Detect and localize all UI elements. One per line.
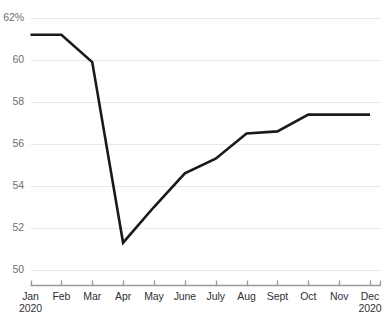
x-tick-year: 2020: [349, 302, 388, 314]
y-tick-label-50: 50: [0, 264, 24, 275]
x-tick-month: Dec: [361, 290, 379, 302]
x-tick-year: 2020: [10, 302, 52, 314]
x-tick-month: Apr: [115, 290, 131, 302]
gridlines: [31, 19, 382, 271]
y-tick-label-58: 58: [0, 96, 24, 107]
data-series-line: [31, 35, 371, 243]
x-tick-month: Aug: [237, 290, 255, 302]
y-tick-label-56: 56: [0, 138, 24, 149]
line-chart: 62%605856545250 Jan2020FebMarAprMayJuneJ…: [0, 0, 388, 326]
x-tick-month: Feb: [52, 290, 70, 302]
x-tick-month: Nov: [330, 290, 348, 302]
y-tick-label-52: 52: [0, 222, 24, 233]
x-tick-month: July: [207, 290, 225, 302]
x-tick-month: Mar: [83, 290, 101, 302]
x-tick-month: Oct: [300, 290, 316, 302]
x-axis-ticks: [32, 281, 381, 286]
caption-fragment: [30, 319, 360, 326]
x-tick-month: May: [144, 290, 164, 302]
chart-canvas: [0, 0, 388, 326]
x-tick-month: June: [174, 290, 196, 302]
y-tick-label-54: 54: [0, 180, 24, 191]
y-tick-label-62: 62%: [0, 12, 24, 23]
x-tick-month: Sept: [267, 290, 288, 302]
x-tick-month: Jan: [22, 290, 39, 302]
y-tick-label-60: 60: [0, 54, 24, 65]
x-tick-label-dec: Dec2020: [349, 290, 388, 314]
